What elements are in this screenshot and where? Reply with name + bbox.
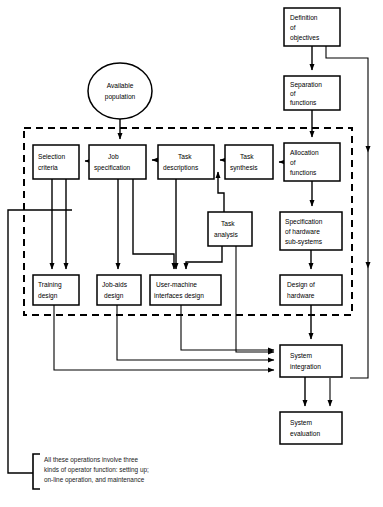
node-task-descriptions[interactable]: Task descriptions (158, 145, 214, 179)
node-label-line: descriptions (163, 164, 199, 172)
node-label-line: Task (178, 153, 192, 160)
edge-left-feedback-bus (8, 210, 72, 473)
node-label-line: System (290, 352, 312, 360)
legend-group: All these operations involve three kinds… (33, 454, 149, 489)
edge-task-analysis-to-system-integration (236, 246, 274, 352)
node-label-line: hardware (287, 292, 315, 299)
node-label-line: functions (290, 169, 317, 176)
node-label-line: Job (108, 153, 119, 160)
edge-job-specification-to-user-machine (133, 179, 174, 269)
node-label-line: Task (240, 153, 254, 160)
node-selection-criteria[interactable]: Selection criteria (33, 145, 79, 179)
node-label-line: Design of (287, 281, 315, 289)
node-job-aids-design[interactable]: Job-aids design (97, 275, 141, 305)
node-definition-objectives[interactable]: Definition of objectives (284, 8, 340, 46)
edge-task-analysis-to-task-descriptions (218, 172, 224, 212)
legend-line: All these operations involve three (44, 456, 139, 464)
node-label-line: sub-systems (285, 238, 323, 246)
edge-user-machine-to-system-integration (181, 305, 274, 350)
edge-task-analysis-to-user-machine (186, 246, 222, 269)
node-label-line: Specification (285, 218, 323, 226)
node-separation-functions[interactable]: Separation of functions (284, 76, 340, 110)
node-label-line: of (290, 24, 296, 31)
node-label-line: User-machine (156, 281, 197, 288)
node-label-line: Job-aids (102, 281, 128, 288)
node-task-analysis[interactable]: Task analysis (208, 212, 252, 246)
node-user-machine-interfaces-design[interactable]: User-machine interfaces design (150, 275, 221, 305)
node-label-line: Training (38, 281, 62, 289)
node-label-line: objectives (290, 34, 320, 42)
node-label-line: design (38, 292, 58, 300)
node-label-line: Task (221, 220, 235, 227)
node-layer: Definition of objectives Separation of f… (33, 8, 342, 444)
node-label-line: functions (290, 99, 317, 106)
node-label-line: population (105, 93, 136, 101)
legend-line: kinds of operator function: setting up; (44, 466, 149, 474)
node-training-design[interactable]: Training design (33, 275, 79, 305)
node-label-line: specification (94, 164, 131, 172)
node-label-line: Available (107, 82, 134, 89)
node-label-line: design (104, 292, 124, 300)
node-label-line: System (290, 419, 312, 427)
node-available-population[interactable]: Available population (88, 63, 152, 119)
node-label-line: integration (290, 363, 321, 371)
flowchart-svg: Definition of objectives Separation of f… (0, 0, 383, 507)
node-label-line: interfaces design (154, 292, 204, 300)
node-label-line: of hardware (285, 228, 320, 235)
node-label-line: synthesis (230, 164, 258, 172)
node-label-line: Separation (290, 81, 322, 89)
node-label-line: evaluation (290, 430, 320, 437)
node-label-line: Allocation (290, 149, 319, 156)
node-label-line: criteria (38, 164, 58, 171)
node-allocation-functions[interactable]: Allocation of functions (284, 143, 340, 181)
legend-line: on-line operation, and maintenance (44, 476, 145, 484)
node-label-line: analysis (214, 231, 239, 239)
node-label-line: of (290, 90, 296, 97)
node-job-specification[interactable]: Job specification (89, 145, 146, 179)
node-label-line: of (290, 159, 296, 166)
node-specification-hardware[interactable]: Specification of hardware sub-systems (280, 212, 342, 250)
node-system-evaluation[interactable]: System evaluation (280, 412, 342, 444)
node-label-line: Definition (290, 14, 318, 21)
node-label-line: Selection (38, 153, 65, 160)
legend-bracket-icon (33, 454, 40, 489)
node-design-hardware[interactable]: Design of hardware (280, 275, 342, 305)
flowchart-canvas: Definition of objectives Separation of f… (0, 0, 383, 507)
node-task-synthesis[interactable]: Task synthesis (225, 145, 273, 179)
node-system-integration[interactable]: System integration (280, 345, 342, 377)
